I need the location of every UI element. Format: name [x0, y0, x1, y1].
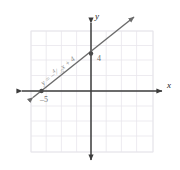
graph-canvas: x y 4 –5 y = –4⁄–5x + 4: [0, 0, 180, 170]
x-axis-label: x: [166, 80, 171, 90]
x-intercept-label: –5: [39, 95, 48, 104]
y-intercept-label: 4: [97, 54, 101, 63]
x-intercept-point: [39, 89, 43, 93]
linear-function-graph: x y 4 –5 y = –4⁄–5x + 4: [0, 0, 180, 170]
y-axis-label: y: [94, 11, 99, 21]
y-intercept-point: [89, 51, 93, 55]
